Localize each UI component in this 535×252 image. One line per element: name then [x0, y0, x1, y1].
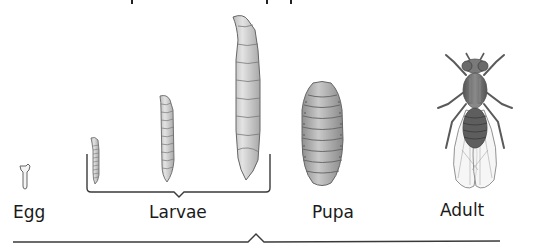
- larva-small-icon: [91, 137, 99, 184]
- top-partial-text: [131, 0, 292, 4]
- larva-large-icon: [233, 16, 260, 180]
- adult-fly-icon: [438, 53, 512, 188]
- egg-icon: [20, 164, 30, 189]
- stage-label-larvae: Larvae: [149, 204, 207, 221]
- stage-label-adult: Adult: [440, 202, 484, 219]
- pupa-icon: [302, 82, 343, 186]
- stage-label-egg: Egg: [13, 204, 45, 221]
- life-cycle-bracket: [13, 234, 500, 242]
- larva-medium-icon: [160, 96, 174, 183]
- stage-label-pupa: Pupa: [312, 204, 354, 221]
- life-cycle-diagram: Egg Larvae Pupa Adult: [0, 0, 535, 252]
